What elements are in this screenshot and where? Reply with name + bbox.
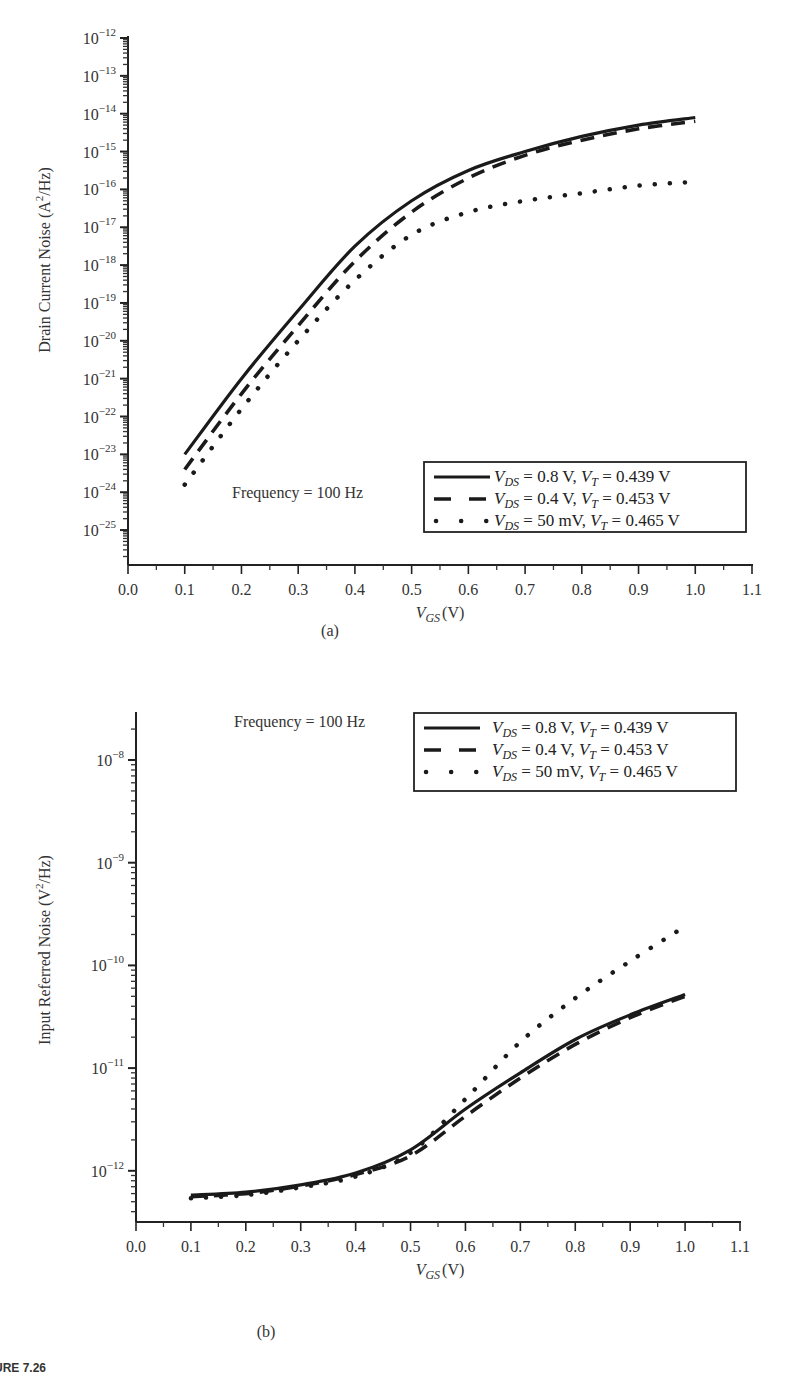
- frequency-annotation: Frequency = 100 Hz: [234, 713, 365, 731]
- x-tick-label: 0.2: [231, 581, 251, 598]
- x-tick-label: 1.0: [675, 1238, 695, 1255]
- x-tick-label: 0.8: [572, 581, 592, 598]
- x-tick-label: 0.6: [455, 1238, 475, 1255]
- legend-entry-label: VDS = 50 mV, VT = 0.465 V: [492, 762, 679, 784]
- legend-entry-label: VDS = 0.4 V, VT = 0.453 V: [494, 489, 671, 511]
- y-tick-label: 10−23: [83, 442, 117, 463]
- legend: VDS = 0.8 V, VT = 0.439 VVDS = 0.4 V, VT…: [424, 462, 746, 533]
- y-tick-label: 10−9: [96, 851, 124, 872]
- x-tick-label: 0.5: [401, 1238, 421, 1255]
- y-tick-label: 10−15: [83, 140, 117, 161]
- y-tick-label: 10−13: [83, 64, 117, 85]
- x-tick-label: 0.9: [629, 581, 649, 598]
- chart-a-drain-current-noise: 10−1210−1310−1410−1510−1610−1710−1810−19…: [33, 26, 762, 640]
- x-tick-label: 1.0: [685, 581, 705, 598]
- y-tick-label: 10−20: [83, 329, 117, 350]
- y-axis-title: Input Referred Noise (V2/Hz): [33, 855, 54, 1045]
- x-tick-label: 0.3: [288, 581, 308, 598]
- y-tick-label: 10−16: [83, 177, 117, 198]
- legend-entry-label: VDS = 0.8 V, VT = 0.439 V: [494, 467, 671, 489]
- x-tick-label: 0.3: [291, 1238, 311, 1255]
- x-tick-label: 0.0: [118, 581, 138, 598]
- legend-entry-label: VDS = 0.8 V, VT = 0.439 V: [492, 718, 669, 740]
- x-tick-label: 0.5: [402, 581, 422, 598]
- y-tick-label: 10−14: [83, 102, 117, 123]
- frequency-annotation: Frequency = 100 Hz: [232, 484, 363, 502]
- x-tick-label: 0.6: [458, 581, 478, 598]
- y-tick-label: 10−12: [91, 1159, 124, 1180]
- x-tick-label: 0.4: [345, 581, 365, 598]
- x-tick-label: 1.1: [730, 1238, 750, 1255]
- y-tick-label: 10−8: [96, 748, 124, 769]
- x-tick-label: 0.1: [181, 1238, 201, 1255]
- series-dashed-line: [191, 996, 685, 1196]
- y-tick-label: 10−17: [83, 215, 117, 236]
- x-tick-label: 0.7: [515, 581, 535, 598]
- y-tick-label: 10−21: [83, 367, 116, 388]
- y-tick-label: 10−12: [83, 26, 116, 47]
- y-tick-label: 10−25: [83, 518, 117, 539]
- x-axis-title: VGS(V): [416, 604, 465, 625]
- series-dotted-line: [191, 926, 685, 1198]
- x-tick-label: 0.8: [565, 1238, 585, 1255]
- legend-entry-label: VDS = 0.4 V, VT = 0.453 V: [492, 740, 669, 762]
- panel-label: (a): [321, 622, 339, 640]
- y-axis-title: Drain Current Noise (A2/Hz): [33, 167, 54, 352]
- series-dotted-line: [185, 182, 696, 485]
- y-tick-label: 10−11: [91, 1056, 124, 1077]
- legend-entry-label: VDS = 50 mV, VT = 0.465 V: [494, 511, 681, 533]
- x-tick-label: 0.0: [126, 1238, 146, 1255]
- series-solid-line: [185, 117, 696, 454]
- x-tick-label: 1.1: [742, 581, 762, 598]
- x-tick-label: 0.9: [620, 1238, 640, 1255]
- y-tick-label: 10−18: [83, 253, 117, 274]
- x-axis-title: VGS(V): [416, 1261, 465, 1282]
- panel-label: (b): [257, 1323, 276, 1341]
- y-tick-label: 10−22: [83, 405, 116, 426]
- x-tick-label: 0.4: [346, 1238, 366, 1255]
- figure-caption: URE 7.26: [0, 1361, 46, 1375]
- y-tick-label: 10−19: [83, 291, 117, 312]
- x-tick-label: 0.1: [175, 581, 195, 598]
- chart-b-input-referred-noise: 10−810−910−1010−1110−120.00.10.20.30.40.…: [33, 712, 750, 1341]
- series-dashed-line: [185, 121, 696, 469]
- figure-canvas: 10−1210−1310−1410−1510−1610−1710−1810−19…: [0, 0, 797, 1378]
- x-tick-label: 0.2: [236, 1238, 256, 1255]
- y-tick-label: 10−24: [83, 480, 117, 501]
- x-tick-label: 0.7: [510, 1238, 530, 1255]
- legend: VDS = 0.8 V, VT = 0.439 VVDS = 0.4 V, VT…: [414, 713, 736, 791]
- y-tick-label: 10−10: [91, 953, 125, 974]
